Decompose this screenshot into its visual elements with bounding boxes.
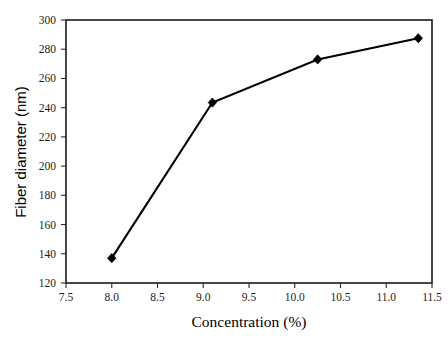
x-tick-label: 11.5	[422, 291, 442, 303]
y-axis-title: Fiber diameter (nm)	[12, 86, 29, 218]
x-tick-label: 10.0	[285, 291, 305, 303]
x-tick-label: 7.5	[59, 291, 74, 303]
y-tick-label: 260	[39, 72, 57, 84]
x-tick-label: 8.5	[150, 291, 165, 303]
y-tick-label: 180	[39, 189, 57, 201]
y-tick-label: 300	[39, 14, 57, 26]
x-tick-label: 10.5	[330, 291, 350, 303]
y-tick-label: 200	[39, 160, 57, 172]
x-tick-label: 9.0	[196, 291, 211, 303]
x-tick-label: 11.0	[376, 291, 396, 303]
line-chart: 120140160180200220240260280300 7.58.08.5…	[0, 0, 448, 342]
x-tick-label: 8.0	[105, 291, 120, 303]
y-tick-label: 280	[39, 43, 57, 55]
y-tick-label: 160	[39, 219, 57, 231]
chart-figure: 120140160180200220240260280300 7.58.08.5…	[0, 0, 448, 342]
y-tick-label: 140	[39, 248, 57, 260]
y-tick-label: 240	[39, 102, 57, 114]
x-axis-tick-labels: 7.58.08.59.09.510.010.511.011.5	[59, 291, 442, 303]
x-axis-title: Concentration (%)	[192, 313, 307, 331]
y-tick-label: 120	[39, 277, 57, 289]
x-tick-label: 9.5	[242, 291, 257, 303]
y-tick-label: 220	[39, 131, 57, 143]
